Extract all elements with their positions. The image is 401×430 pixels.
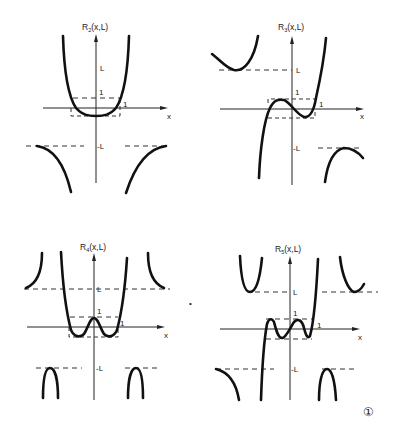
neg-l-label: -L xyxy=(96,364,104,373)
stray-mark: • xyxy=(189,299,192,308)
x-axis-arrow xyxy=(356,107,364,111)
y-axis-arrow xyxy=(290,36,294,44)
neg-l-label: -L xyxy=(97,142,105,151)
panel-title: R2(x,L) xyxy=(82,22,108,33)
r2-right-branch xyxy=(126,146,166,193)
y-axis-arrow xyxy=(94,34,98,42)
neg-l-label: -L xyxy=(291,365,299,374)
one-x-label: 1 xyxy=(317,321,322,330)
rational-function-figure: R2(x,L) L 1 1 x -L R3(x,L) L 1 1 x -L xyxy=(0,0,401,430)
y-axis-arrow xyxy=(92,253,96,261)
panel-title: R5(x,L) xyxy=(275,244,301,255)
one-y-label: 1 xyxy=(293,309,298,318)
panel-r5: R5(x,L) L 1 1 x -L ① xyxy=(216,244,378,419)
l-label: L xyxy=(296,66,301,75)
l-label: L xyxy=(293,288,298,297)
one-y-label: 1 xyxy=(97,307,102,316)
x-axis-arrow xyxy=(352,327,360,331)
r5-upper-right-branch xyxy=(340,257,364,292)
r3-upper-left-branch xyxy=(212,36,258,70)
panel-title: R3(x,L) xyxy=(278,22,304,33)
r5-lower-left-branch xyxy=(216,369,239,400)
x-axis-arrow xyxy=(160,106,168,110)
panel-r3: R3(x,L) L 1 1 x -L xyxy=(212,22,364,185)
one-x-label: 1 xyxy=(319,100,324,109)
one-y-label: 1 xyxy=(99,88,104,97)
r4-upper-right-branch xyxy=(148,253,164,288)
r4-upper-left-branch xyxy=(26,253,42,288)
r4-lower-left-branch xyxy=(43,368,58,398)
x-label: x xyxy=(358,333,362,342)
panel-r2: R2(x,L) L 1 1 x -L xyxy=(26,22,171,193)
x-axis-arrow xyxy=(157,325,165,329)
one-x-label: 1 xyxy=(120,319,125,328)
panel-title: R4(x,L) xyxy=(80,242,106,253)
r3-lower-right-branch xyxy=(325,148,363,182)
l-label: L xyxy=(100,64,105,73)
r5-lower-right-branch xyxy=(319,369,336,400)
figure-number-badge: ① xyxy=(363,405,374,419)
one-y-label: 1 xyxy=(295,88,300,97)
x-label: x xyxy=(360,112,364,121)
r2-left-branch xyxy=(37,146,71,192)
y-axis-arrow xyxy=(288,256,292,264)
x-label: x xyxy=(164,331,168,340)
one-x-label: 1 xyxy=(123,100,128,109)
neg-l-label: -L xyxy=(293,144,301,153)
panel-r4: R4(x,L) L 1 1 x -L • xyxy=(24,242,192,400)
x-label: x xyxy=(167,112,171,121)
r5-upper-left-branch xyxy=(240,256,262,292)
r4-lower-right-branch xyxy=(128,368,143,398)
